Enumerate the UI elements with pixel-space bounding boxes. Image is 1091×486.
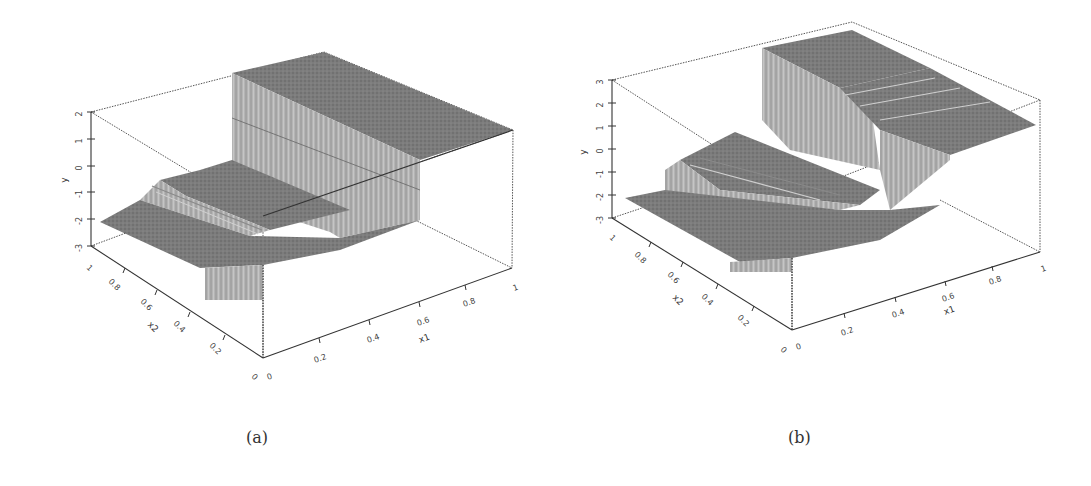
- z-axis-label-a: y: [59, 177, 69, 183]
- chart-panel-a: 2 1 0 -1 -2 -3 y 1 0.8 0.6 0.4 0.2 0 x2 …: [0, 0, 545, 486]
- surface-plot-b: 3 2 1 0 -1 -2 -3 y 1 0.8 0.6 0.4 0.2 0: [545, 0, 1091, 486]
- svg-text:-2: -2: [75, 217, 84, 225]
- surface-plot-a: 2 1 0 -1 -2 -3 y 1 0.8 0.6 0.4 0.2 0 x2 …: [0, 0, 545, 486]
- svg-text:0: 0: [75, 165, 84, 170]
- svg-text:0.4: 0.4: [366, 332, 381, 345]
- svg-text:2: 2: [75, 111, 84, 116]
- caption-a: (a): [246, 428, 268, 447]
- svg-text:0: 0: [795, 342, 803, 352]
- caption-b: (b): [788, 428, 811, 447]
- x1-axis-label-b: x1: [942, 304, 956, 317]
- svg-text:1: 1: [75, 138, 84, 143]
- svg-text:0.4: 0.4: [891, 307, 906, 320]
- svg-text:0.2: 0.2: [736, 313, 751, 328]
- svg-text:0.8: 0.8: [462, 296, 477, 309]
- svg-text:0: 0: [266, 372, 274, 382]
- svg-text:-2: -2: [596, 193, 605, 201]
- svg-text:1: 1: [596, 125, 605, 130]
- svg-text:1: 1: [512, 283, 520, 293]
- svg-text:0.6: 0.6: [941, 291, 956, 304]
- svg-text:1: 1: [1040, 264, 1048, 274]
- svg-text:1: 1: [85, 263, 95, 273]
- svg-text:0.4: 0.4: [172, 319, 187, 334]
- x1-tick-labels-b: 0 0.2 0.4 0.6 0.8 1: [795, 264, 1048, 352]
- svg-text:0.8: 0.8: [988, 274, 1003, 287]
- svg-text:0.2: 0.2: [313, 352, 328, 365]
- x2-axis-label-b: x2: [671, 292, 686, 307]
- chart-panel-b: 3 2 1 0 -1 -2 -3 y 1 0.8 0.6 0.4 0.2 0: [545, 0, 1091, 486]
- x1-tick-labels-a: 0 0.2 0.4 0.6 0.8 1: [266, 283, 520, 382]
- svg-text:0.8: 0.8: [633, 250, 648, 265]
- svg-text:0.6: 0.6: [666, 270, 681, 285]
- svg-text:-1: -1: [596, 170, 605, 178]
- svg-text:0: 0: [250, 372, 260, 382]
- x1-axis-ticks-a: [319, 285, 466, 343]
- svg-text:2: 2: [596, 102, 605, 107]
- svg-text:3: 3: [596, 79, 605, 84]
- z-tick-labels-b: 3 2 1 0 -1 -2 -3: [596, 79, 605, 224]
- z-axis-label-b: y: [578, 149, 588, 155]
- svg-text:0.6: 0.6: [139, 297, 154, 312]
- svg-text:0.4: 0.4: [700, 292, 715, 307]
- svg-text:0.2: 0.2: [208, 341, 223, 356]
- svg-text:-1: -1: [75, 190, 84, 198]
- svg-text:0: 0: [596, 148, 605, 153]
- front-drop-a: [205, 265, 263, 300]
- z-tick-labels-a: 2 1 0 -1 -2 -3: [75, 111, 84, 252]
- svg-text:1: 1: [608, 233, 618, 243]
- svg-text:0.6: 0.6: [416, 315, 431, 328]
- svg-text:0: 0: [779, 345, 789, 355]
- x2-axis-label-a: x2: [146, 319, 161, 334]
- svg-text:0.2: 0.2: [840, 325, 855, 338]
- x1-axis-label-a: x1: [417, 332, 431, 345]
- svg-text:-3: -3: [75, 244, 84, 252]
- svg-text:0.8: 0.8: [107, 277, 122, 292]
- svg-text:-3: -3: [596, 216, 605, 224]
